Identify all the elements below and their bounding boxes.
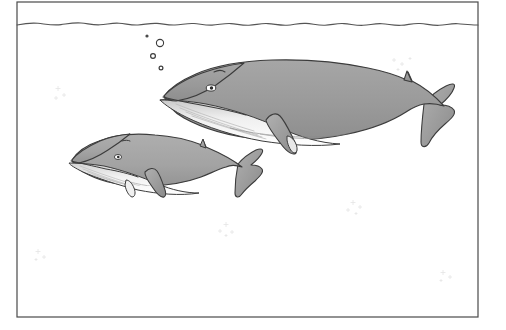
bubble-medium <box>151 54 156 59</box>
small-whale-eye <box>114 155 121 160</box>
scene-canvas <box>0 0 506 330</box>
bubble-small-bottom <box>159 66 163 70</box>
large-whale-eye <box>206 85 216 91</box>
bubble-large <box>156 39 163 46</box>
whale-illustration <box>0 0 506 330</box>
bubble-small-top <box>145 34 148 37</box>
